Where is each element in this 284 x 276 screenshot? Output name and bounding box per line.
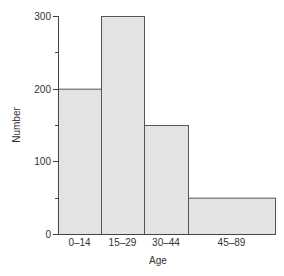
y-axis-label: Number — [11, 107, 22, 143]
x-tick-label: 45–89 — [218, 237, 246, 248]
x-tick-label: 15–29 — [109, 237, 137, 248]
y-tick-label: 300 — [34, 11, 51, 22]
y-tick-label: 200 — [34, 84, 51, 95]
x-axis-label: Age — [149, 255, 167, 266]
x-tick-labels: 0–1415–2930–4445–89 — [68, 237, 245, 248]
histogram-chart: 0100200300 0–1415–2930–4445–89 Number Ag… — [0, 0, 284, 276]
bars-group — [59, 17, 276, 235]
x-tick-label: 30–44 — [152, 237, 180, 248]
y-tick-label: 0 — [45, 229, 51, 240]
bar-15–29 — [102, 17, 145, 235]
bar-30–44 — [145, 126, 189, 235]
y-tick-label: 100 — [34, 156, 51, 167]
bar-0–14 — [59, 89, 102, 234]
x-tick-label: 0–14 — [68, 237, 91, 248]
bar-45–89 — [189, 198, 276, 234]
